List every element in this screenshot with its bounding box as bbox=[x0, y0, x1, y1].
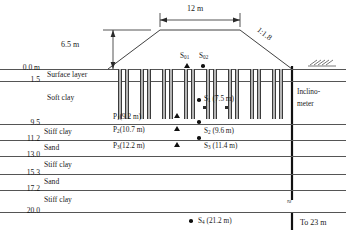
depth-label-0-0: 0.0 m bbox=[0, 64, 40, 72]
soil-layer-stiff-clay-3: Stiff clay bbox=[44, 196, 72, 204]
settlement-label-s1: S1 (7.5 m) bbox=[204, 95, 234, 103]
settlement-marker-s02 bbox=[201, 64, 205, 68]
soil-layer-soft-clay: Soft clay bbox=[47, 94, 74, 102]
piezometer-label-p3: P3(12.2 m) bbox=[113, 142, 145, 150]
ground-column bbox=[191, 69, 195, 119]
anchor-square-left bbox=[203, 106, 206, 109]
casing-break-symbol: ≈ bbox=[287, 198, 291, 206]
ground-hatch-marks bbox=[308, 60, 336, 66]
inclinometer-label-line1: Inclino- bbox=[297, 88, 320, 95]
ground-column bbox=[147, 69, 151, 119]
settlement-marker-s1 bbox=[197, 98, 201, 102]
embankment-left-slope bbox=[108, 30, 160, 69]
piezometer-label-p2: P2(10.7 m) bbox=[113, 126, 145, 134]
embankment-height-label: 6.5 m bbox=[61, 41, 79, 49]
soil-layer-sand-2: Sand bbox=[44, 178, 59, 186]
ground-column bbox=[235, 69, 239, 119]
soil-layer-surface-layer: Surface layer bbox=[47, 71, 87, 79]
ground-column bbox=[257, 69, 261, 119]
depth-label-13-0: 13.0 bbox=[0, 151, 40, 159]
settlement-marker-s3 bbox=[197, 136, 201, 140]
settlement-label-s02: S02 bbox=[199, 52, 208, 60]
crest-dimension-line bbox=[160, 13, 240, 27]
layer-line-1 bbox=[0, 81, 346, 82]
ground-column bbox=[184, 69, 188, 119]
depth-label-20-0: 20.0 bbox=[0, 207, 40, 215]
settlement-marker-s01 bbox=[184, 63, 190, 68]
depth-label-1-5: 1.5 bbox=[0, 76, 40, 84]
ground-column bbox=[169, 69, 173, 119]
depth-label-9-5: 9.5 bbox=[0, 119, 40, 127]
inclinometer-label-line2: meter bbox=[297, 100, 314, 107]
piezometer-marker-p1 bbox=[174, 113, 180, 118]
settlement-marker-s4 bbox=[189, 219, 193, 223]
settlement-label-s2: S2 (9.6 m) bbox=[204, 127, 234, 135]
layer-line-4 bbox=[0, 156, 346, 157]
depth-label-15-3: 15.3 bbox=[0, 169, 40, 177]
layer-line-6 bbox=[0, 190, 346, 191]
settlement-marker-s2 bbox=[197, 120, 201, 124]
piezometer-marker-p3 bbox=[174, 142, 180, 147]
layer-line-3 bbox=[0, 140, 346, 141]
settlement-label-s3: S3 (11.4 m) bbox=[204, 142, 237, 150]
ground-column bbox=[162, 69, 166, 119]
ground-column bbox=[272, 69, 276, 119]
soil-layer-stiff-clay-1: Stiff clay bbox=[44, 128, 72, 136]
diagram-vector-layer bbox=[0, 0, 346, 240]
ground-column bbox=[250, 69, 254, 119]
depth-label-11-2: 11.2 bbox=[0, 135, 40, 143]
settlement-label-s01: S01 bbox=[180, 52, 189, 60]
embankment-cross-section-figure: 12 m 6.5 m 1:1.8 0.0 m 1.5 9.5 11.2 13.0… bbox=[0, 0, 346, 240]
inclinometer-extent-note: To 23 m bbox=[300, 219, 327, 227]
ground-column bbox=[279, 69, 283, 119]
layer-line-7 bbox=[0, 212, 346, 213]
layer-line-2 bbox=[0, 124, 346, 125]
soil-layer-stiff-clay-2: Stiff clay bbox=[44, 161, 72, 169]
settlement-label-s4: S4 (21.2 m) bbox=[198, 217, 232, 225]
depth-label-17-2: 17.2 bbox=[0, 185, 40, 193]
height-dimension-line bbox=[103, 30, 151, 69]
crest-width-label: 12 m bbox=[187, 5, 203, 13]
layer-line-5 bbox=[0, 174, 346, 175]
anchor-square-right bbox=[225, 106, 228, 109]
piezometer-label-p1: P1(9.2 m) bbox=[113, 113, 141, 121]
soil-layer-sand-1: Sand bbox=[44, 144, 59, 152]
piezometer-marker-p2 bbox=[174, 126, 180, 131]
